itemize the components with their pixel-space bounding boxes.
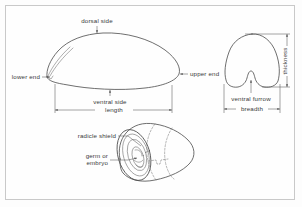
perspective-view-group: radicle shield germ or embryo xyxy=(78,123,194,184)
lower-end-label: lower end xyxy=(12,73,41,80)
upper-end-label: upper end xyxy=(190,70,220,77)
interior-contour-2 xyxy=(165,128,174,179)
ventral-furrow-label: ventral furrow xyxy=(231,95,271,102)
grain-perspective-outline xyxy=(119,123,194,181)
germ-embryo-shape xyxy=(130,145,146,168)
grain-side-outline xyxy=(47,33,180,90)
germ-embryo-detail-2 xyxy=(134,160,143,162)
cross-section-outline xyxy=(225,34,279,87)
ventral-side-label: ventral side xyxy=(93,98,127,105)
germ-embryo-detail-3 xyxy=(136,165,143,167)
germ-embryo-label-line2: embryo xyxy=(86,159,108,166)
dorsal-side-label: dorsal side xyxy=(81,17,113,24)
cross-section-view-group: ventral furrow breadth thickness xyxy=(224,34,292,113)
radicle-shield-label: radicle shield xyxy=(78,132,117,139)
grain-crease-line xyxy=(48,47,70,76)
length-label: length xyxy=(105,106,123,113)
breadth-label: breadth xyxy=(241,105,263,112)
thickness-label: thickness xyxy=(281,47,288,74)
seed-anatomy-figure: dorsal side lower end upper end ventral … xyxy=(0,0,302,207)
side-view-group: dorsal side lower end upper end ventral … xyxy=(12,17,220,114)
grain-cut-face-inner-rim xyxy=(118,131,154,179)
grain-crease-line-inner xyxy=(50,48,73,76)
diagram-canvas: dorsal side lower end upper end ventral … xyxy=(0,0,302,207)
germ-embryo-label-line1: germ or xyxy=(86,152,108,159)
